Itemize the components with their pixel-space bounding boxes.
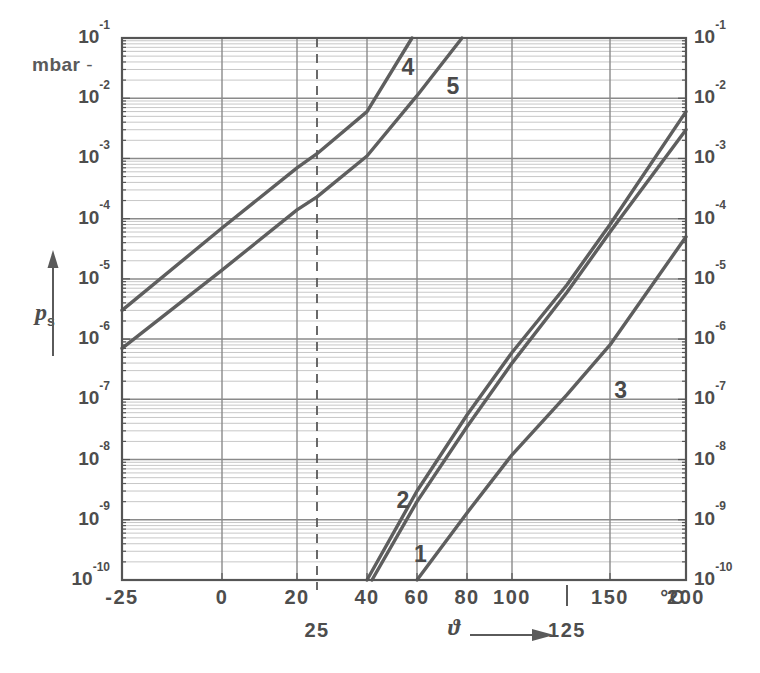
y-axis-tick-right--4: 10-4 <box>694 206 726 229</box>
tick-mantissa: 10 <box>694 26 715 47</box>
tick-mantissa: 10 <box>694 267 715 288</box>
tick-exponent: -10 <box>93 560 110 574</box>
tick-exponent: -1 <box>99 18 110 32</box>
curve-5 <box>122 38 462 348</box>
curve-4 <box>122 38 412 310</box>
x-axis-tick-100: 100 <box>472 586 552 609</box>
tick-exponent: -7 <box>99 379 110 393</box>
y-axis-tick-right--5: 10-5 <box>694 266 726 289</box>
tick-mantissa: 10 <box>78 388 99 409</box>
tick-mantissa: 10 <box>694 327 715 348</box>
tick-exponent: -8 <box>715 439 726 453</box>
chart-canvas <box>0 0 760 673</box>
tick-exponent: -5 <box>99 258 110 272</box>
y-axis-tick-right--2: 10-2 <box>694 85 726 108</box>
tick-exponent: -1 <box>715 18 726 32</box>
tick-exponent: -7 <box>715 379 726 393</box>
tick-exponent: -4 <box>99 198 110 212</box>
tick-exponent: -8 <box>99 439 110 453</box>
vapor-pressure-chart: mbar ‑ ps ϑ °C 10-110-110-210-210-310-31… <box>0 0 760 673</box>
tick-exponent: -5 <box>715 258 726 272</box>
curve-label-4: 4 <box>402 54 415 81</box>
tick-mantissa: 10 <box>694 87 715 108</box>
y-axis-tick-left--2: 10-2 <box>14 85 110 108</box>
tick-exponent: -9 <box>715 499 726 513</box>
y-axis-tick-left--1: 10-1 <box>14 25 110 48</box>
tick-mantissa: 10 <box>694 388 715 409</box>
curve-label-3: 3 <box>614 377 627 404</box>
y-axis-tick-right--6: 10-6 <box>694 326 726 349</box>
y-axis-tick-left--3: 10-3 <box>14 145 110 168</box>
tick-mantissa: 10 <box>78 87 99 108</box>
curve-label-2: 2 <box>397 487 410 514</box>
tick-exponent: -10 <box>715 560 732 574</box>
tick-exponent: -9 <box>99 499 110 513</box>
x-axis-direction-arrow <box>470 625 556 645</box>
tick-exponent: -6 <box>715 319 726 333</box>
tick-exponent: -3 <box>715 138 726 152</box>
y-axis-tick-left--8: 10-8 <box>14 447 110 470</box>
tick-mantissa: 10 <box>78 26 99 47</box>
tick-mantissa: 10 <box>78 508 99 529</box>
tick-mantissa: 10 <box>694 448 715 469</box>
y-axis-tick-right--8: 10-8 <box>694 447 726 470</box>
y-axis-tick-right--9: 10-9 <box>694 507 726 530</box>
tick-exponent: -2 <box>715 78 726 92</box>
x-axis-tick-150: 150 <box>570 586 650 609</box>
curve-label-1: 1 <box>414 541 427 568</box>
y-axis-tick-right--3: 10-3 <box>694 145 726 168</box>
tick-mantissa: 10 <box>78 147 99 168</box>
x-axis-symbol-label: ϑ <box>448 615 460 641</box>
curve-1 <box>372 130 686 580</box>
x-axis-tick-200: 200 <box>646 586 726 609</box>
tick-exponent: -6 <box>99 319 110 333</box>
tick-mantissa: 10 <box>694 508 715 529</box>
x-axis-tick-0: 0 <box>182 586 262 609</box>
curve-label-5: 5 <box>447 73 460 100</box>
tick-mantissa: 10 <box>78 327 99 348</box>
tick-exponent: -4 <box>715 198 726 212</box>
tick-mantissa: 10 <box>694 207 715 228</box>
x-axis-tick--25: -25 <box>82 586 162 609</box>
tick-mantissa: 10 <box>78 207 99 228</box>
x-axis-tick-20: 20 <box>257 586 337 609</box>
y-axis-unit-label: mbar ‑ <box>32 54 93 76</box>
y-axis-direction-arrow <box>42 248 64 358</box>
minor-horizontal-gridlines <box>122 41 686 562</box>
y-axis-tick-right--7: 10-7 <box>694 386 726 409</box>
tick-mantissa: 10 <box>694 147 715 168</box>
y-axis-tick-left--9: 10-9 <box>14 507 110 530</box>
tick-exponent: -2 <box>99 78 110 92</box>
tick-mantissa: 10 <box>78 267 99 288</box>
y-axis-tick-left--4: 10-4 <box>14 206 110 229</box>
x-axis-annotation-25: 25 <box>282 619 352 642</box>
tick-exponent: -3 <box>99 138 110 152</box>
y-axis-tick-left--7: 10-7 <box>14 386 110 409</box>
tick-mantissa: 10 <box>78 448 99 469</box>
y-axis-tick-right--1: 10-1 <box>694 25 726 48</box>
